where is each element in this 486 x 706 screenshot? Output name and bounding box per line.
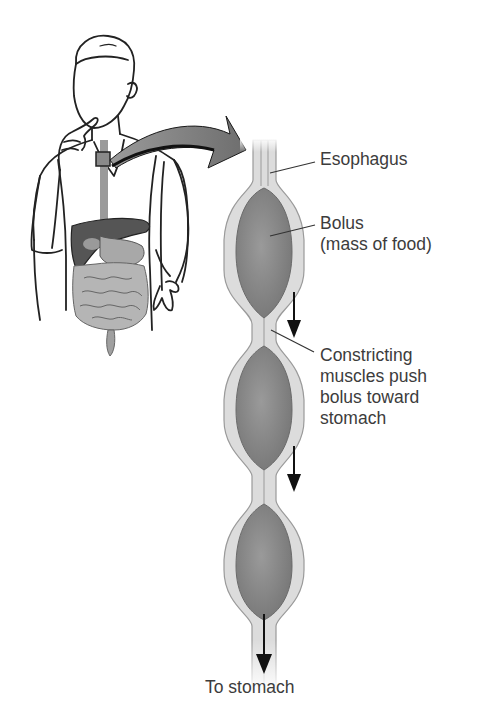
body-esophagus: [96, 140, 110, 230]
label-esophagus: Esophagus: [320, 149, 408, 170]
intestines: [73, 263, 148, 356]
head-outline: [74, 36, 135, 128]
label-bolus: Bolus (mass of food): [320, 213, 432, 255]
gallbladder: [83, 238, 101, 250]
leader-esophagus: [270, 162, 315, 173]
stomach: [100, 236, 144, 267]
peristalsis-diagram: Esophagus Bolus (mass of food) Constrict…: [0, 0, 486, 706]
label-constricting-muscles: Constricting muscles push bolus toward s…: [320, 345, 427, 429]
label-to-stomach: To stomach: [205, 677, 294, 698]
curved-arrow: [110, 116, 246, 168]
zoom-indicator-box: [96, 152, 110, 166]
esophagus-tube: [224, 138, 304, 692]
